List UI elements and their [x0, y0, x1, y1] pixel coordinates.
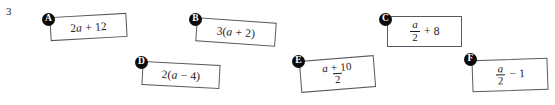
question-number: 3	[6, 6, 12, 17]
expr-f-numerator: a	[495, 63, 505, 75]
expr-f-fraction: a 2	[495, 63, 506, 87]
expression-card-a[interactable]: 2a + 12	[49, 13, 127, 41]
expr-d-coefficient: 2(	[161, 68, 172, 81]
expr-d-term: − 4)	[177, 69, 200, 82]
expr-c-fraction: a 2	[410, 19, 420, 43]
expression-card-c[interactable]: a 2 + 8	[387, 16, 462, 47]
card-marker-c: C	[379, 13, 392, 26]
expr-e-denominator: 2	[333, 73, 344, 86]
card-marker-f: F	[464, 53, 477, 66]
expr-f-denominator: 2	[496, 74, 506, 87]
card-marker-e: E	[292, 55, 305, 68]
expression-text-b: 3(a + 2)	[216, 25, 256, 40]
expr-c-suffix: + 8	[421, 24, 440, 36]
expr-c-denominator: 2	[410, 31, 420, 43]
card-marker-a: A	[42, 13, 55, 26]
expression-text-f: a 2 − 1	[494, 63, 525, 88]
card-marker-b: B	[189, 13, 202, 26]
expression-text-c: a 2 + 8	[409, 20, 440, 44]
card-marker-d: D	[135, 56, 148, 69]
worksheet-question-panel: 3 2a + 12 A 3(a + 2) B a 2 + 8 C 2(a − 4…	[0, 0, 555, 105]
expression-text-e: a + 10 2	[319, 61, 356, 88]
expr-b-term: + 2)	[232, 26, 256, 40]
expression-card-e[interactable]: a + 10 2	[299, 55, 376, 93]
expr-c-numerator: a	[410, 19, 420, 30]
expression-card-f[interactable]: a 2 − 1	[471, 58, 548, 93]
expr-e-fraction: a + 10 2	[320, 60, 355, 86]
expression-card-b[interactable]: 3(a + 2)	[195, 17, 276, 47]
expr-a-term: + 12	[82, 20, 107, 33]
expression-card-d[interactable]: 2(a − 4)	[141, 61, 220, 89]
expr-f-suffix: − 1	[506, 67, 525, 80]
expr-e-numerator: a + 10	[320, 60, 354, 74]
expression-text-d: 2(a − 4)	[161, 68, 200, 82]
expression-text-a: 2a + 12	[70, 20, 107, 34]
